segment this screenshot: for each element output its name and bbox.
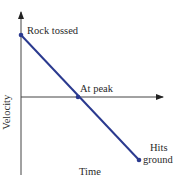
label-at-peak: At peak [80, 84, 113, 95]
y-axis-label: Velocity [2, 95, 13, 130]
x-axis-label: Time [79, 167, 101, 178]
point-at-peak [76, 95, 81, 100]
point-hits-ground [137, 158, 142, 163]
point-rock-tossed [19, 33, 24, 38]
label-rock-tossed: Rock tossed [27, 26, 78, 37]
label-ground: ground [143, 155, 173, 166]
label-hits: Hits [150, 143, 168, 154]
